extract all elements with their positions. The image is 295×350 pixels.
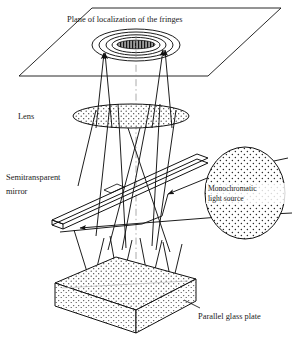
- mirror-notch: [104, 184, 124, 193]
- mirror-label-line1: Semitransparent: [6, 173, 61, 182]
- ray-diagram-svg: Monochromatic light source Plane of loca…: [0, 0, 295, 350]
- lens-label: Lens: [18, 112, 34, 121]
- glass-plate-label: Parallel glass plate: [198, 312, 261, 321]
- monochromatic-source-group: Monochromatic light source: [205, 147, 286, 239]
- fringe-plane-label: Plane of localization of the fringes: [67, 15, 183, 24]
- mirror-inner-edge: [63, 163, 208, 229]
- source-label-line2: light source: [208, 194, 244, 203]
- source-label-line1: Monochromatic: [208, 184, 257, 193]
- mirror-label-line2: mirror: [6, 187, 28, 196]
- interferometer-figure: Monochromatic light source Plane of loca…: [0, 0, 295, 350]
- parallel-glass-plate: [55, 257, 200, 333]
